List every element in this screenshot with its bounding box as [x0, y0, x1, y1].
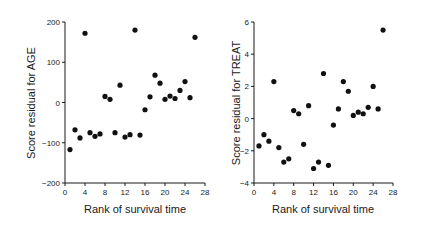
x-tick-label: 8: [103, 188, 108, 197]
data-point: [172, 96, 177, 101]
data-point: [331, 122, 336, 127]
data-point: [97, 131, 102, 136]
x-tick-label: 12: [121, 188, 130, 197]
treat-residual-plot: −4−202460481216202428: [240, 18, 398, 197]
data-point: [167, 93, 172, 98]
data-point: [311, 166, 316, 171]
data-point: [147, 94, 152, 99]
x-tick-label: 28: [389, 188, 398, 197]
data-point: [306, 103, 311, 108]
y-tick-label: 0: [245, 115, 250, 124]
x-tick-label: 20: [161, 188, 170, 197]
data-point: [336, 106, 341, 111]
data-point: [366, 105, 371, 110]
data-point: [192, 35, 197, 40]
x-tick-label: 4: [272, 188, 277, 197]
x-tick-label: 12: [309, 188, 318, 197]
y-tick-label: −4: [240, 179, 250, 188]
data-point: [351, 113, 356, 118]
x-tick-label: 20: [349, 188, 358, 197]
left-y-axis-label: Score residual for AGE: [25, 47, 37, 159]
data-point: [92, 134, 97, 139]
x-tick-label: 0: [63, 188, 68, 197]
data-point: [162, 97, 167, 102]
data-point: [346, 89, 351, 94]
data-point: [286, 156, 291, 161]
data-point: [72, 127, 77, 132]
x-tick-label: 8: [291, 188, 296, 197]
data-point: [271, 79, 276, 84]
data-point: [102, 94, 107, 99]
x-tick-label: 0: [252, 188, 257, 197]
data-point: [182, 79, 187, 84]
y-tick-label: 4: [245, 50, 250, 59]
x-tick-label: 4: [83, 188, 88, 197]
data-point: [77, 135, 82, 140]
right-y-axis-label: Score residual for TREAT: [230, 41, 242, 166]
x-tick-label: 24: [181, 188, 190, 197]
y-tick-label: 6: [245, 18, 250, 27]
data-point: [356, 110, 361, 115]
y-tick-label: −200: [42, 179, 61, 188]
right-x-axis-label: Rank of survival time: [272, 203, 374, 215]
data-point: [67, 147, 72, 152]
data-point: [321, 71, 326, 76]
data-point: [256, 143, 261, 148]
left-x-axis-label: Rank of survival time: [84, 203, 186, 215]
data-point: [371, 84, 376, 89]
data-point: [177, 88, 182, 93]
y-tick-label: 0: [56, 99, 61, 108]
data-point: [137, 133, 142, 138]
data-point: [117, 83, 122, 88]
data-point: [296, 111, 301, 116]
data-point: [82, 31, 87, 36]
data-point: [132, 27, 137, 32]
data-point: [187, 95, 192, 100]
data-point: [291, 108, 296, 113]
data-point: [122, 135, 127, 140]
x-tick-label: 16: [329, 188, 338, 197]
y-tick-label: 100: [47, 58, 61, 67]
x-tick-label: 24: [369, 188, 378, 197]
data-point: [107, 97, 112, 102]
data-point: [261, 132, 266, 137]
data-point: [112, 130, 117, 135]
data-point: [142, 107, 147, 112]
data-point: [281, 159, 286, 164]
data-point: [361, 111, 366, 116]
x-tick-label: 16: [141, 188, 150, 197]
y-tick-label: 2: [245, 82, 250, 91]
y-tick-label: −100: [42, 139, 61, 148]
data-point: [266, 139, 271, 144]
x-tick-label: 28: [201, 188, 210, 197]
data-point: [316, 159, 321, 164]
data-point: [341, 79, 346, 84]
data-point: [87, 130, 92, 135]
chart-canvas: −200−10001002000481216202428 −4−20246048…: [0, 0, 429, 230]
data-point: [380, 27, 385, 32]
age-residual-plot: −200−10001002000481216202428: [42, 18, 210, 197]
data-point: [326, 163, 331, 168]
data-point: [376, 106, 381, 111]
y-tick-label: 200: [47, 18, 61, 27]
data-point: [276, 145, 281, 150]
data-point: [301, 142, 306, 147]
data-point: [157, 81, 162, 86]
data-point: [152, 73, 157, 78]
data-point: [127, 132, 132, 137]
